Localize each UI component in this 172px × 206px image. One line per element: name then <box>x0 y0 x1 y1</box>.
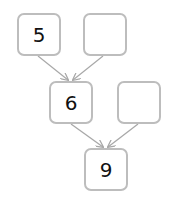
arrow-top-right-to-middle-left <box>73 56 103 80</box>
arrow-middle-right-to-bottom <box>108 124 138 147</box>
node-top-left: 5 <box>17 13 61 56</box>
node-middle-right-empty[interactable] <box>117 81 161 124</box>
node-bottom-value: 9 <box>100 158 113 182</box>
arrow-top-left-to-middle-left <box>38 56 68 80</box>
arrow-middle-left-to-bottom <box>71 124 103 147</box>
node-top-left-value: 5 <box>33 23 46 47</box>
addition-tree-diagram: 5 6 9 <box>0 0 172 206</box>
node-middle-left-value: 6 <box>65 91 78 115</box>
node-middle-left: 6 <box>49 81 93 124</box>
node-top-right-empty[interactable] <box>83 13 127 56</box>
node-bottom: 9 <box>84 148 128 191</box>
